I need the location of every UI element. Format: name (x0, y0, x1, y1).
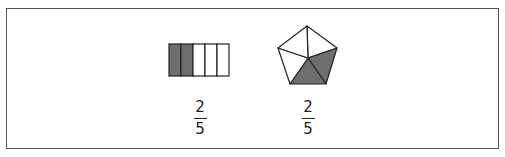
fraction-label-rectangle: 2 5 (185, 100, 215, 137)
rect-part-5 (217, 44, 229, 76)
fraction-figures (0, 0, 505, 157)
numerator: 2 (293, 100, 323, 115)
denominator: 5 (185, 122, 215, 137)
rectangle-model (169, 44, 229, 76)
fraction-bar (194, 118, 207, 119)
rect-part-4 (205, 44, 217, 76)
rect-part-2-shaded (181, 44, 193, 76)
fraction-label-pentagon: 2 5 (293, 100, 323, 137)
denominator: 5 (293, 122, 323, 137)
pentagon-model (278, 26, 337, 84)
rect-part-1-shaded (169, 44, 181, 76)
fraction-bar (302, 118, 315, 119)
rect-part-3 (193, 44, 205, 76)
numerator: 2 (185, 100, 215, 115)
